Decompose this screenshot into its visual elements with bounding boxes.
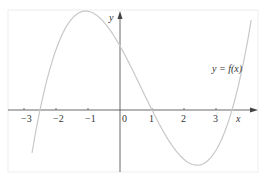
y-axis-label: y — [108, 12, 114, 23]
x-tick-label: −1 — [85, 113, 96, 124]
x-tick-label: 0 — [122, 113, 127, 124]
plot-frame — [8, 10, 258, 172]
x-tick-label: 3 — [213, 113, 218, 124]
axes — [8, 11, 258, 172]
x-tick-label: −3 — [21, 113, 32, 124]
x-tick-label: 1 — [149, 113, 154, 124]
function-plot: x y y = f(x) −3−2−10123 — [0, 0, 269, 181]
function-curve — [32, 11, 251, 165]
x-tick-label: 2 — [181, 113, 186, 124]
x-axis-label: x — [235, 113, 241, 124]
x-tick-label: −2 — [53, 113, 64, 124]
x-tick-labels: −3−2−10123 — [21, 113, 218, 124]
x-axis-arrow-icon — [250, 108, 258, 113]
curve-label: y = f(x) — [211, 63, 243, 75]
y-axis-arrow-icon — [118, 11, 123, 19]
